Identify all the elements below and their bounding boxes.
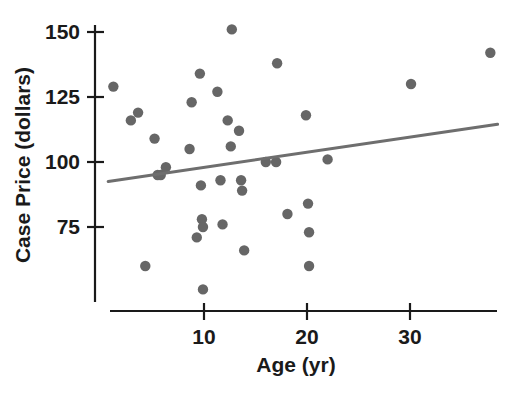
data-point <box>215 175 225 185</box>
data-point <box>485 48 495 58</box>
scatter-plot-svg: 75100125150 102030 Age (yr) Case Price (… <box>0 0 526 394</box>
x-axis-group: 102030 <box>110 303 497 348</box>
y-axis-group: 75100125150 <box>45 20 104 302</box>
x-axis-title: Age (yr) <box>256 353 335 376</box>
data-point <box>192 232 202 242</box>
data-point <box>301 110 311 120</box>
y-axis-tick-label: 150 <box>45 20 80 43</box>
data-point <box>212 87 222 97</box>
data-point <box>217 219 227 229</box>
x-axis-tick-label: 10 <box>192 325 215 348</box>
data-point <box>161 162 171 172</box>
data-point <box>322 154 332 164</box>
data-point <box>236 175 246 185</box>
data-point <box>133 107 143 117</box>
data-point <box>196 180 206 190</box>
data-point <box>186 97 196 107</box>
data-point <box>222 115 232 125</box>
x-axis-tick-label: 20 <box>295 325 318 348</box>
data-point <box>237 185 247 195</box>
y-axis-tick-label: 75 <box>57 215 81 238</box>
trend-line <box>108 124 497 181</box>
data-point <box>226 141 236 151</box>
y-axis-title: Case Price (dollars) <box>11 67 34 263</box>
scatter-chart-figure: 75100125150 102030 Age (yr) Case Price (… <box>0 0 526 394</box>
data-point <box>198 222 208 232</box>
data-point <box>126 115 136 125</box>
data-point <box>184 144 194 154</box>
data-point <box>234 126 244 136</box>
data-point <box>304 261 314 271</box>
y-axis-tick-label: 100 <box>45 150 80 173</box>
data-point <box>272 58 282 68</box>
data-point <box>108 81 118 91</box>
data-point <box>195 68 205 78</box>
data-point-group <box>108 24 495 294</box>
y-axis-tick-label: 125 <box>45 85 80 108</box>
data-point <box>239 245 249 255</box>
x-axis-tick-label: 30 <box>398 325 421 348</box>
data-point <box>227 24 237 34</box>
y-axis-tick-labels: 75100125150 <box>45 20 80 238</box>
data-point <box>304 227 314 237</box>
data-point <box>140 261 150 271</box>
data-point <box>198 284 208 294</box>
data-point <box>303 198 313 208</box>
x-axis-tick-labels: 102030 <box>192 325 421 348</box>
data-point <box>149 133 159 143</box>
data-point <box>282 209 292 219</box>
data-point <box>406 79 416 89</box>
